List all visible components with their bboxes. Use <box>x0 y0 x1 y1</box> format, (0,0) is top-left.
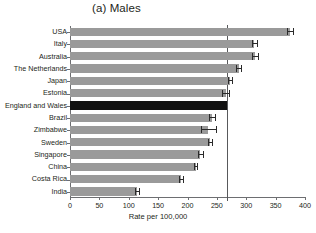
bar[interactable] <box>70 89 226 97</box>
y-axis-label-china: China <box>48 163 67 171</box>
x-axis-tick-label: 150 <box>152 202 164 210</box>
chart-title: (a) Males <box>92 2 141 14</box>
bar-row[interactable] <box>70 38 305 50</box>
error-bar-cap <box>241 65 242 72</box>
error-bar-cap <box>215 114 216 121</box>
x-axis-tick <box>99 197 100 200</box>
bar[interactable] <box>70 40 254 48</box>
error-bar-cap <box>293 28 294 35</box>
error-bar-cap <box>208 139 209 146</box>
bar-row[interactable] <box>70 75 305 87</box>
error-bar-cap <box>201 126 202 133</box>
x-axis-title: Rate per 100,000 <box>0 212 316 221</box>
x-axis-tick-label: 350 <box>270 202 282 210</box>
bar[interactable] <box>70 52 255 60</box>
bar-row[interactable] <box>70 112 305 124</box>
bar-row[interactable] <box>70 87 305 99</box>
y-axis-label-costa-rica: Costa Rica <box>32 175 67 183</box>
error-bar-line <box>222 93 229 94</box>
bar[interactable] <box>70 114 212 122</box>
error-bar-cap <box>287 28 288 35</box>
bar-row[interactable] <box>70 124 305 136</box>
y-axis-label-japan: Japan <box>47 77 67 85</box>
error-bar-cap <box>257 40 258 47</box>
bar[interactable] <box>70 175 181 183</box>
error-bar-cap <box>228 77 229 84</box>
error-bar-cap <box>179 176 180 183</box>
x-axis-tick-label: 100 <box>123 202 135 210</box>
error-bar-cap <box>258 53 259 60</box>
error-bar-cap <box>203 151 204 158</box>
y-axis-label-italy: Italy <box>54 40 67 48</box>
x-axis-tick-label: 50 <box>95 202 103 210</box>
error-bar-cap <box>194 163 195 170</box>
error-bar-cap <box>216 126 217 133</box>
bar-row[interactable] <box>70 63 305 75</box>
error-bar-cap <box>135 188 136 195</box>
error-bar-cap <box>183 176 184 183</box>
bar-row[interactable] <box>70 137 305 149</box>
error-bar-cap <box>252 40 253 47</box>
x-axis-tick-label: 250 <box>211 202 223 210</box>
error-bar-cap <box>252 53 253 60</box>
bar-row[interactable] <box>70 100 305 112</box>
error-bar-line <box>201 129 216 130</box>
x-axis-tick-label: 300 <box>240 202 252 210</box>
x-axis-tick <box>305 197 306 200</box>
x-axis-tick-label: 400 <box>299 202 311 210</box>
y-axis-label-estonia: Estonia <box>43 89 67 97</box>
bar-row[interactable] <box>70 161 305 173</box>
error-bar-cap <box>236 65 237 72</box>
y-axis-label-australia: Australia <box>39 53 67 61</box>
error-bar-cap <box>232 77 233 84</box>
bar-row[interactable] <box>70 51 305 63</box>
y-axis-label-england-and-wales: England and Wales <box>5 102 67 110</box>
bar[interactable] <box>70 150 200 158</box>
x-axis-tick-label: 0 <box>68 202 72 210</box>
x-axis-tick <box>188 197 189 200</box>
x-axis-tick-label: 200 <box>182 202 194 210</box>
x-axis-tick <box>276 197 277 200</box>
x-axis-tick <box>158 197 159 200</box>
bar[interactable] <box>70 77 230 85</box>
bar[interactable] <box>70 126 208 134</box>
plot-area: 050100150200250300350400 <box>70 26 305 198</box>
bar-row[interactable] <box>70 173 305 185</box>
x-axis-tick <box>70 197 71 200</box>
bar[interactable] <box>70 28 290 36</box>
bar[interactable] <box>70 64 239 72</box>
bar[interactable] <box>70 187 137 195</box>
y-axis-label-india: India <box>51 188 67 196</box>
error-bar-cap <box>139 188 140 195</box>
y-axis-labels: USAItalyAustraliaThe NetherlandsJapanEst… <box>0 26 67 198</box>
x-axis-tick <box>246 197 247 200</box>
y-axis-label-the-netherlands: The Netherlands <box>14 65 67 73</box>
bar[interactable] <box>70 138 210 146</box>
y-axis-label-singapore: Singapore <box>34 151 67 159</box>
y-axis-label-usa: USA <box>52 28 67 36</box>
bar[interactable] <box>70 101 227 110</box>
x-axis-tick <box>217 197 218 200</box>
x-axis-tick <box>129 197 130 200</box>
error-bar-cap <box>212 139 213 146</box>
error-bar-cap <box>209 114 210 121</box>
y-axis-label-sweden: Sweden <box>41 139 67 147</box>
bar-row[interactable] <box>70 26 305 38</box>
bar-row[interactable] <box>70 149 305 161</box>
y-axis-label-brazil: Brazil <box>49 114 67 122</box>
error-bar-cap <box>222 90 223 97</box>
error-bar-cap <box>229 90 230 97</box>
error-bar-cap <box>197 163 198 170</box>
bar[interactable] <box>70 163 196 171</box>
error-bar-cap <box>198 151 199 158</box>
y-axis-label-zimbabwe: Zimbabwe <box>34 126 67 134</box>
chart-container: (a) Males USAItalyAustraliaThe Netherlan… <box>0 0 316 233</box>
